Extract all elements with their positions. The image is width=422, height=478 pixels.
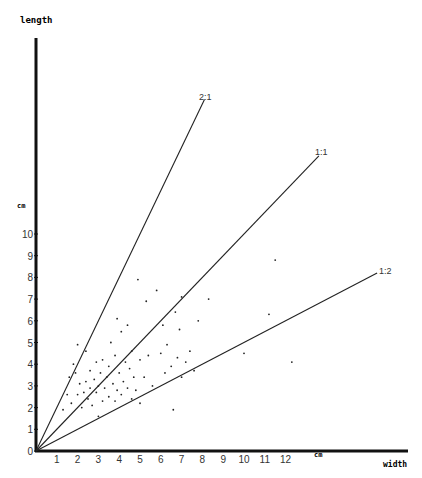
ratio-line xyxy=(36,273,377,451)
data-point xyxy=(291,361,293,363)
data-point xyxy=(108,396,110,398)
data-point xyxy=(129,368,131,370)
data-point xyxy=(100,372,102,374)
data-point xyxy=(73,363,75,365)
data-point xyxy=(75,372,77,374)
data-point xyxy=(164,372,166,374)
scatter-chart: length cm cm width 012345678910 12345678… xyxy=(0,0,422,478)
data-point xyxy=(131,350,133,352)
data-point xyxy=(174,311,176,313)
data-point xyxy=(170,365,172,367)
x-tick-label: 6 xyxy=(158,454,164,465)
data-point xyxy=(127,387,129,389)
y-tick-label: 1 xyxy=(27,424,33,435)
x-tick-label: 10 xyxy=(238,454,250,465)
data-point xyxy=(116,318,118,320)
data-point xyxy=(139,359,141,361)
data-point xyxy=(274,259,276,261)
y-tick-label: 8 xyxy=(27,272,33,283)
y-unit-label: cm xyxy=(17,202,25,210)
data-point xyxy=(77,394,79,396)
data-point xyxy=(62,409,64,411)
data-point xyxy=(181,376,183,378)
data-point xyxy=(185,361,187,363)
ratio-line xyxy=(36,99,204,451)
data-point xyxy=(70,402,72,404)
data-point xyxy=(179,329,181,331)
data-point xyxy=(172,409,174,411)
data-point xyxy=(85,350,87,352)
y-tick-label: 7 xyxy=(27,294,33,305)
line-label-1-2: 1:2 xyxy=(379,266,392,276)
data-point xyxy=(189,350,191,352)
data-point xyxy=(85,381,87,383)
data-point xyxy=(197,320,199,322)
x-tick-label: 8 xyxy=(200,454,206,465)
y-tick-label: 3 xyxy=(27,381,33,392)
data-point xyxy=(177,357,179,359)
x-tick-label: 7 xyxy=(179,454,185,465)
data-point xyxy=(135,389,137,391)
data-point xyxy=(193,370,195,372)
data-point xyxy=(122,381,124,383)
y-tick-label: 2 xyxy=(27,403,33,414)
x-ticks: 123456789101112 xyxy=(54,454,292,465)
data-point xyxy=(110,342,112,344)
data-point xyxy=(181,296,183,298)
data-point xyxy=(91,405,93,407)
data-point xyxy=(120,394,122,396)
data-point xyxy=(125,361,127,363)
data-point xyxy=(98,415,100,417)
data-point xyxy=(152,385,154,387)
data-point xyxy=(79,383,81,385)
axes xyxy=(35,38,408,452)
data-point xyxy=(139,402,141,404)
data-point xyxy=(127,324,129,326)
data-point xyxy=(131,398,133,400)
data-point xyxy=(145,300,147,302)
y-tick-label: 6 xyxy=(27,316,33,327)
data-points xyxy=(62,259,293,417)
line-label-2-1: 2:1 xyxy=(199,92,212,102)
data-point xyxy=(106,376,108,378)
data-point xyxy=(93,378,95,380)
data-point xyxy=(81,407,83,409)
data-point xyxy=(68,376,70,378)
x-tick-label: 3 xyxy=(96,454,102,465)
data-point xyxy=(143,376,145,378)
data-point xyxy=(160,352,162,354)
y-tick-label: 10 xyxy=(22,229,34,240)
y-tick-label: 0 xyxy=(27,446,33,457)
data-point xyxy=(208,298,210,300)
data-point xyxy=(83,392,85,394)
data-point xyxy=(162,324,164,326)
data-point xyxy=(89,370,91,372)
x-tick-label: 5 xyxy=(137,454,143,465)
data-point xyxy=(102,359,104,361)
x-axis-title: width xyxy=(383,459,407,469)
data-point xyxy=(156,290,158,292)
data-point xyxy=(89,387,91,389)
data-point xyxy=(102,400,104,402)
data-point xyxy=(98,385,100,387)
data-point xyxy=(104,387,106,389)
x-tick-label: 1 xyxy=(54,454,60,465)
y-axis-title: length xyxy=(20,15,53,25)
data-point xyxy=(95,361,97,363)
data-point xyxy=(66,394,68,396)
data-point xyxy=(114,400,116,402)
y-tick-label: 5 xyxy=(27,338,33,349)
data-point xyxy=(137,279,139,281)
y-tick-label: 9 xyxy=(27,251,33,262)
x-tick-label: 4 xyxy=(116,454,122,465)
data-point xyxy=(87,398,89,400)
data-point xyxy=(268,313,270,315)
line-label-1-1: 1:1 xyxy=(315,147,328,157)
data-point xyxy=(112,383,114,385)
x-tick-label: 11 xyxy=(260,454,271,465)
y-tick-label: 4 xyxy=(27,359,33,370)
x-tick-label: 2 xyxy=(75,454,81,465)
data-point xyxy=(133,376,135,378)
data-point xyxy=(243,352,245,354)
data-point xyxy=(108,365,110,367)
